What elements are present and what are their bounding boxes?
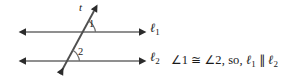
line-l1-label-subscript: 1 [155, 27, 160, 37]
angle-symbol-2: ∠ [205, 53, 216, 67]
parallel-lines-transversal-figure: t 1 2 ℓ1 ℓ2 ∠1 ≅ ∠2, so, ℓ1 ∥ ℓ2 [0, 0, 288, 83]
conclusion-statement: ∠1 ≅ ∠2, so, ℓ1 ∥ ℓ2 [171, 52, 278, 69]
angle-2-label: 2 [78, 47, 83, 58]
statement-angle1-number: 1 [182, 53, 188, 67]
angle-1-label: 1 [89, 19, 94, 30]
statement-line1-subscript: 1 [251, 59, 256, 69]
line-l2-label-subscript: 2 [155, 56, 160, 66]
transversal-label-t: t [79, 2, 82, 13]
angle-symbol-1: ∠ [171, 53, 182, 67]
statement-connector: , so, [222, 53, 246, 67]
congruent-symbol: ≅ [191, 53, 201, 67]
line-l1-label: ℓ1 [150, 22, 160, 37]
line-l2-label: ℓ2 [150, 51, 160, 66]
geometry-diagram-svg [0, 0, 288, 83]
statement-line2-subscript: 2 [273, 59, 278, 69]
parallel-symbol: ∥ [259, 52, 265, 67]
